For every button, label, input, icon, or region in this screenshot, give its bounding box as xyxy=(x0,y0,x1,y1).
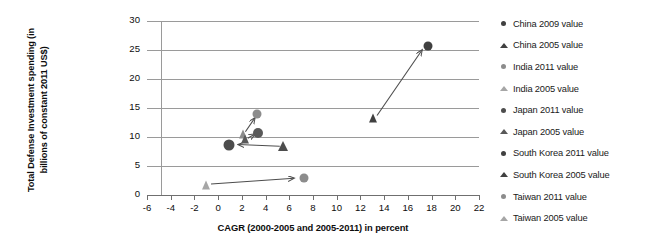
x-tick xyxy=(218,195,219,200)
x-tick xyxy=(242,195,243,200)
x-tick-label: 22 xyxy=(474,202,485,213)
legend-circle-icon xyxy=(498,151,509,156)
y-tick-label: 25 xyxy=(129,43,140,54)
x-tick xyxy=(147,195,148,200)
x-tick-label: 16 xyxy=(403,202,414,213)
legend-item[interactable]: Japan 2005 value xyxy=(498,121,646,143)
data-point xyxy=(241,135,249,144)
x-tick xyxy=(360,195,361,200)
legend-triangle-icon xyxy=(498,216,509,221)
x-tick-label: 4 xyxy=(263,202,268,213)
chart-figure: Total Defense Investment spending (in bi… xyxy=(0,0,647,243)
legend-item[interactable]: South Korea 2011 value xyxy=(498,143,646,165)
legend-circle-icon xyxy=(498,64,509,69)
x-tick-label: 18 xyxy=(426,202,437,213)
legend-label: Taiwan 2011 value xyxy=(513,192,587,202)
y-tick-label: 20 xyxy=(129,72,140,83)
legend-label: India 2011 value xyxy=(513,62,578,72)
legend-item[interactable]: South Korea 2005 value xyxy=(498,164,646,186)
x-tick-label: -2 xyxy=(190,202,199,213)
y-tick-label: 30 xyxy=(129,14,140,25)
legend-item[interactable]: Taiwan 2011 value xyxy=(498,186,646,208)
x-tick xyxy=(455,195,456,200)
y-tick-label: 0 xyxy=(135,188,140,199)
x-tick xyxy=(266,195,267,200)
legend-item[interactable]: Taiwan 2005 value xyxy=(498,207,646,229)
data-point xyxy=(253,128,263,138)
legend-item[interactable]: India 2005 value xyxy=(498,78,646,100)
x-tick xyxy=(337,195,338,200)
legend-item[interactable]: India 2011 value xyxy=(498,56,646,78)
legend-label: China 2009 value xyxy=(513,19,583,29)
x-tick xyxy=(384,195,385,200)
legend-item[interactable]: Japan 2011 value xyxy=(498,99,646,121)
legend-circle-icon xyxy=(498,108,509,113)
x-tick-label: 2 xyxy=(239,202,244,213)
x-tick-label: 14 xyxy=(379,202,390,213)
legend-item[interactable]: China 2009 value xyxy=(498,13,646,35)
legend-circle-icon xyxy=(498,194,509,199)
x-tick-label: 20 xyxy=(450,202,461,213)
legend-label: India 2005 value xyxy=(513,84,579,94)
x-tick xyxy=(408,195,409,200)
y-tick-label: 15 xyxy=(129,101,140,112)
y-axis-tick-labels: 051015202530 xyxy=(0,21,143,195)
china-arrow xyxy=(377,50,422,116)
legend-triangle-icon xyxy=(498,172,509,177)
x-tick xyxy=(171,195,172,200)
data-point xyxy=(299,174,308,183)
x-tick xyxy=(313,195,314,200)
x-tick xyxy=(289,195,290,200)
data-point xyxy=(223,139,234,150)
x-tick-label: 6 xyxy=(287,202,292,213)
legend-label: Japan 2011 value xyxy=(513,105,583,115)
legend-item[interactable]: China 2005 value xyxy=(498,35,646,57)
legend-label: Taiwan 2005 value xyxy=(513,213,587,223)
x-tick xyxy=(432,195,433,200)
x-tick xyxy=(194,195,195,200)
arrow-lines xyxy=(211,50,422,184)
legend-triangle-icon xyxy=(498,86,509,91)
plot-area xyxy=(147,21,479,195)
x-tick-label: 10 xyxy=(331,202,342,213)
legend-triangle-icon xyxy=(498,129,509,134)
japan-arrow xyxy=(238,145,279,147)
x-tick-label: 0 xyxy=(215,202,220,213)
data-point xyxy=(424,41,433,50)
data-point xyxy=(202,180,210,189)
legend-circle-icon xyxy=(498,21,509,26)
y-tick-label: 10 xyxy=(129,130,140,141)
data-point xyxy=(369,113,377,122)
taiwan-arrow xyxy=(211,178,294,184)
legend-label: Japan 2005 value xyxy=(513,127,584,137)
x-axis-title: CAGR (2000-2005 and 2005-2011) in percen… xyxy=(147,222,479,233)
legend-label: China 2005 value xyxy=(513,40,583,50)
x-tick-label: -6 xyxy=(143,202,152,213)
x-tick-label: 12 xyxy=(355,202,366,213)
legend-label: South Korea 2011 value xyxy=(513,148,609,158)
data-point xyxy=(278,141,288,151)
x-tick-label: 8 xyxy=(310,202,315,213)
legend-label: South Korea 2005 value xyxy=(513,170,609,180)
x-tick-label: -4 xyxy=(166,202,175,213)
x-tick xyxy=(479,195,480,200)
y-tick-label: 5 xyxy=(135,159,140,170)
data-point xyxy=(253,110,262,119)
legend-triangle-icon xyxy=(498,43,509,48)
legend: China 2009 valueChina 2005 valueIndia 20… xyxy=(498,13,646,229)
